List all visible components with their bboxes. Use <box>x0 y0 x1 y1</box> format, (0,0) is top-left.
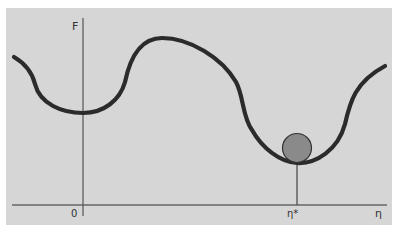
energy-diagram: F 0 η* η <box>0 0 396 239</box>
x-axis-label: η <box>375 207 382 220</box>
free-energy-curve <box>14 38 385 163</box>
ball <box>283 134 312 163</box>
origin-label: 0 <box>71 208 77 219</box>
y-axis-label: F <box>72 20 78 33</box>
eta-star-label: η* <box>287 208 298 219</box>
